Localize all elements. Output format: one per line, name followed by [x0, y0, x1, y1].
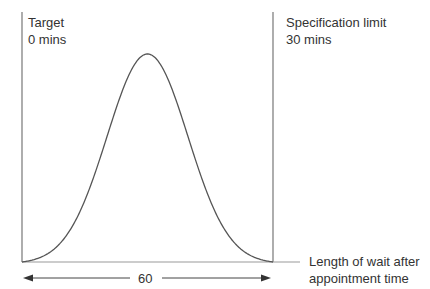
arrow-right-head	[261, 275, 271, 282]
bell-curve	[22, 54, 273, 262]
axis-label-line1: Length of wait after	[309, 253, 420, 270]
arrow-left-head	[23, 275, 33, 282]
axis-label: Length of wait after appointment time	[309, 253, 420, 287]
target-title: Target	[28, 14, 66, 31]
target-label: Target 0 mins	[28, 14, 66, 48]
axis-label-line2: appointment time	[309, 270, 420, 287]
spec-limit-label: Specification limit 30 mins	[286, 14, 386, 48]
span-label: 60	[138, 270, 152, 287]
spec-title: Specification limit	[286, 14, 386, 31]
spec-value: 30 mins	[286, 31, 386, 48]
target-value: 0 mins	[28, 31, 66, 48]
